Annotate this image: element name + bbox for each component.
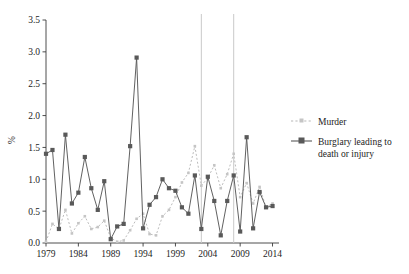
data-point-marker [245, 135, 249, 139]
data-point-marker [115, 224, 119, 228]
data-point-marker [128, 144, 132, 148]
data-point-marker [180, 205, 184, 209]
data-point-marker [147, 203, 151, 207]
y-tick-label: 3.0 [28, 47, 40, 57]
y-axis-title: % [7, 136, 17, 144]
data-point-marker [51, 223, 54, 226]
y-axis-ticks: 0.00.51.01.52.02.53.03.5 [28, 15, 46, 248]
legend-burglary-marker [299, 138, 305, 144]
data-point-marker [257, 190, 261, 194]
data-point-marker [45, 240, 48, 243]
data-point-marker [181, 181, 184, 184]
legend-murder-marker [300, 119, 304, 123]
data-point-marker [252, 202, 255, 205]
data-point-marker [102, 179, 106, 183]
chart-legend: Murder Burglary leading to death or inju… [291, 117, 392, 159]
data-point-marker [71, 232, 74, 235]
legend-burglary-label-line2: death or injury [318, 149, 374, 159]
data-point-marker [129, 229, 132, 232]
data-point-marker [122, 239, 125, 242]
y-tick-label: 0.0 [28, 238, 40, 248]
data-point-marker [193, 173, 197, 177]
x-tick-label: 1984 [69, 249, 88, 259]
data-point-marker [44, 152, 48, 156]
y-tick-label: 1.5 [28, 143, 40, 153]
data-point-marker [225, 199, 229, 203]
data-point-marker [232, 173, 236, 177]
data-point-marker [109, 237, 113, 241]
data-point-marker [57, 227, 61, 231]
y-tick-label: 0.5 [28, 207, 40, 217]
x-tick-label: 1979 [37, 249, 56, 259]
data-point-marker [168, 209, 171, 212]
data-point-marker [96, 208, 100, 212]
data-point-marker [135, 217, 138, 220]
data-point-marker [103, 219, 106, 222]
y-tick-label: 3.5 [28, 15, 40, 25]
data-point-marker [76, 191, 80, 195]
data-point-marker [96, 226, 99, 229]
series-line [46, 58, 273, 240]
data-point-marker [238, 229, 242, 233]
x-axis-ticks: 19791984198919941999200420092014 [37, 243, 283, 259]
data-point-marker [167, 186, 171, 190]
data-point-marker [219, 187, 222, 190]
x-tick-label: 1994 [134, 249, 153, 259]
legend-murder-label: Murder [318, 117, 347, 127]
y-tick-label: 2.0 [28, 111, 40, 121]
data-point-marker [161, 215, 164, 218]
data-point-marker [90, 228, 93, 231]
data-point-marker [122, 222, 126, 226]
data-point-marker [89, 186, 93, 190]
data-point-marker [186, 212, 190, 216]
data-point-marker [70, 201, 74, 205]
x-tick-label: 2009 [231, 249, 250, 259]
data-point-marker [187, 172, 190, 175]
x-tick-label: 1999 [166, 249, 185, 259]
data-point-marker [270, 204, 274, 208]
data-point-marker [83, 155, 87, 159]
line-chart: 0.00.51.01.52.02.53.03.5 197919841989199… [0, 0, 409, 274]
legend-burglary-label-line1: Burglary leading to [318, 137, 392, 147]
y-tick-label: 2.5 [28, 79, 40, 89]
data-point-marker [199, 227, 203, 231]
data-point-marker [160, 177, 164, 181]
data-point-marker [200, 184, 203, 187]
data-point-marker [264, 205, 268, 209]
data-point-marker [226, 173, 229, 176]
data-point-marker [239, 196, 242, 199]
y-tick-label: 1.0 [28, 175, 40, 185]
data-point-marker [212, 199, 216, 203]
data-point-marker [213, 164, 216, 167]
data-point-marker [232, 153, 235, 156]
data-point-marker [174, 196, 177, 199]
chart-container: 0.00.51.01.52.02.53.03.5 197919841989199… [0, 0, 409, 274]
data-point-marker [141, 226, 145, 230]
data-point-marker [63, 133, 67, 137]
data-point-marker [258, 186, 261, 189]
data-point-marker [245, 182, 248, 185]
x-tick-label: 2004 [198, 249, 217, 259]
data-point-marker [135, 55, 139, 59]
data-point-marker [84, 215, 87, 218]
data-point-marker [116, 240, 119, 243]
data-point-marker [194, 145, 197, 148]
x-tick-label: 1989 [101, 249, 120, 259]
data-point-marker [219, 233, 223, 237]
x-tick-label: 2014 [263, 249, 282, 259]
data-point-marker [173, 189, 177, 193]
reference-lines-group [201, 14, 233, 243]
data-point-marker [251, 226, 255, 230]
data-point-marker [155, 234, 158, 237]
data-point-marker [206, 175, 210, 179]
data-point-marker [148, 233, 151, 236]
data-point-marker [50, 148, 54, 152]
data-point-marker [64, 209, 67, 212]
data-point-marker [77, 222, 80, 225]
data-point-marker [154, 195, 158, 199]
series-burglary [44, 55, 275, 241]
